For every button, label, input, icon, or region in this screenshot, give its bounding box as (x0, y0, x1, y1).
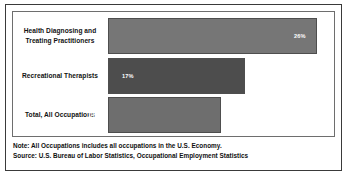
bar-health-diagnosing (108, 18, 317, 54)
bar-row: Recreational Therapists 17% (13, 58, 334, 94)
chart-figure: Health Diagnosing and Treating Practitio… (0, 0, 347, 176)
category-label-1: Recreational Therapists (13, 58, 107, 94)
category-label-2-line1: Total, All Occupations (25, 110, 95, 120)
category-label-1-line1: Recreational Therapists (22, 71, 98, 81)
category-label-0: Health Diagnosing and Treating Practitio… (13, 18, 107, 54)
bar-row: Health Diagnosing and Treating Practitio… (13, 18, 334, 54)
bar-value-label-1: 17% (122, 58, 134, 94)
category-label-0-line1: Health Diagnosing and (24, 27, 97, 34)
bar-total-all-occupations (108, 97, 221, 133)
footnote-source: Source: U.S. Bureau of Labor Statistics,… (13, 151, 323, 161)
bar-value-label-0: 26% (294, 18, 306, 54)
footnotes: Note: All Occupations includes all occup… (13, 141, 323, 161)
bar-value-label-2: 14% (88, 97, 100, 133)
category-label-0-line2: Treating Practitioners (26, 37, 95, 44)
bar-row: Total, All Occupations 14% (13, 97, 334, 133)
plot-area: Health Diagnosing and Treating Practitio… (12, 11, 335, 137)
footnote-note: Note: All Occupations includes all occup… (13, 141, 323, 151)
